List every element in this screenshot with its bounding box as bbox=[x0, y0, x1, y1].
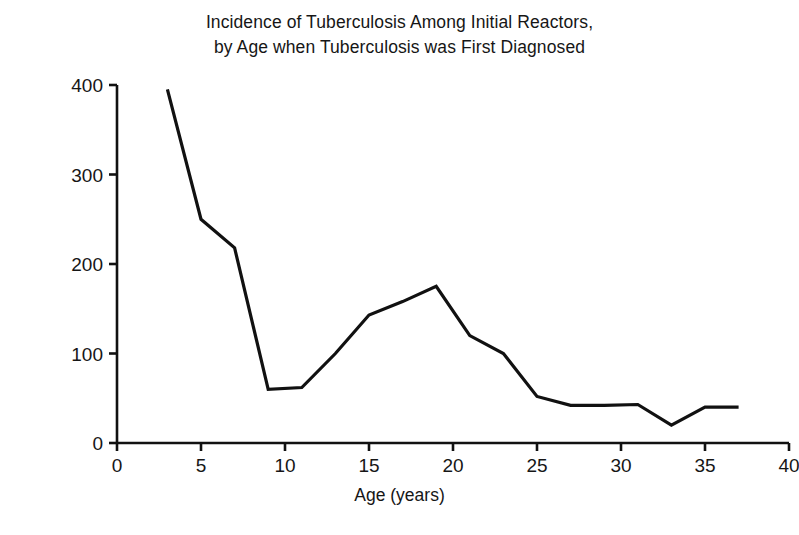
x-axis: 0510152025303540 bbox=[112, 443, 799, 476]
series-line bbox=[167, 89, 738, 425]
y-axis-tick-label: 400 bbox=[71, 75, 103, 96]
x-axis-tick-label: 25 bbox=[526, 455, 547, 476]
x-axis-tick-label: 0 bbox=[112, 455, 123, 476]
x-axis-tick-label: 10 bbox=[274, 455, 295, 476]
x-axis-tick-label: 5 bbox=[196, 455, 207, 476]
chart-figure: Incidence of Tuberculosis Among Initial … bbox=[0, 0, 799, 535]
x-axis-tick-label: 40 bbox=[778, 455, 799, 476]
x-axis-tick-label: 35 bbox=[694, 455, 715, 476]
x-axis-tick-label: 15 bbox=[358, 455, 379, 476]
y-axis: 0100200300400 bbox=[71, 75, 117, 454]
y-axis-tick-label: 100 bbox=[71, 344, 103, 365]
plot-area: 0100200300400 0510152025303540 bbox=[0, 0, 799, 535]
data-series-line bbox=[167, 89, 738, 425]
y-axis-tick-label: 300 bbox=[71, 165, 103, 186]
y-axis-tick-label: 0 bbox=[92, 433, 103, 454]
y-axis-tick-label: 200 bbox=[71, 254, 103, 275]
x-axis-tick-label: 30 bbox=[610, 455, 631, 476]
x-axis-tick-label: 20 bbox=[442, 455, 463, 476]
